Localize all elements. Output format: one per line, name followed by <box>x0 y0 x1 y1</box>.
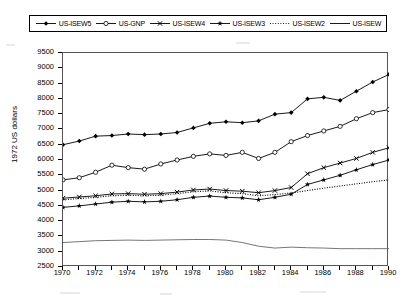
legend-item-us-isew2: US-ISEW2 <box>269 19 325 28</box>
y-tick-mark <box>58 67 62 68</box>
y-tick-mark <box>58 98 62 99</box>
y-tick-label: 9000 <box>20 63 54 71</box>
y-tick-label: 4000 <box>20 216 54 224</box>
y-tick-label: 8000 <box>20 94 54 102</box>
y-axis-title: 1972 US dollars <box>10 75 19 195</box>
y-tick-mark <box>58 235 62 236</box>
legend-key-filled-star-solid-line <box>209 19 231 28</box>
legend-label: US-ISEW <box>353 20 382 28</box>
y-tick-mark <box>58 251 62 252</box>
x-tick-label: 1970 <box>47 269 77 277</box>
legend-label: US-GNP <box>119 20 145 28</box>
x-tick-label: 1986 <box>308 269 338 277</box>
y-tick-label: 9500 <box>20 48 54 56</box>
legend-label: US-ISEW4 <box>173 20 205 28</box>
y-tick-label: 3500 <box>20 231 54 239</box>
legend-label: US-ISEW3 <box>233 20 265 28</box>
y-tick-label: 3000 <box>20 247 54 255</box>
y-tick-mark <box>58 205 62 206</box>
scan-artifact <box>300 291 326 293</box>
y-tick-mark <box>58 220 62 221</box>
legend-key-cross-x-solid-line <box>149 19 171 28</box>
x-tick-label: 1972 <box>80 269 110 277</box>
x-tick-label: 1978 <box>177 269 207 277</box>
y-tick-label: 5000 <box>20 186 54 194</box>
chart-screenshot: US-ISEW5US-GNPUS-ISEW4US-ISEW3US-ISEW2US… <box>0 0 418 300</box>
legend-key-solid-line <box>329 19 351 28</box>
scan-artifact <box>236 42 250 44</box>
y-tick-mark <box>58 83 62 84</box>
series-us-isew5 <box>63 72 389 147</box>
legend-item-us-isew3: US-ISEW3 <box>209 19 265 28</box>
plot-area <box>62 52 388 266</box>
legend-label: US-ISEW2 <box>293 20 325 28</box>
y-tick-mark <box>58 159 62 160</box>
scan-artifact <box>60 292 80 294</box>
legend-item-us-gnp: US-GNP <box>95 19 145 28</box>
y-tick-label: 6500 <box>20 140 54 148</box>
x-tick-label: 1984 <box>275 269 305 277</box>
y-tick-label: 7500 <box>20 109 54 117</box>
x-tick-label: 1982 <box>243 269 273 277</box>
y-tick-mark <box>58 52 62 53</box>
chart-legend: US-ISEW5US-GNPUS-ISEW4US-ISEW3US-ISEW2US… <box>29 15 387 32</box>
legend-item-us-isew4: US-ISEW4 <box>149 19 205 28</box>
y-tick-label: 5500 <box>20 170 54 178</box>
y-tick-mark <box>58 113 62 114</box>
scan-artifact <box>160 293 172 295</box>
y-tick-label: 7000 <box>20 124 54 132</box>
legend-item-us-isew: US-ISEW <box>329 19 382 28</box>
legend-key-dotted-line <box>269 19 291 28</box>
legend-item-us-isew5: US-ISEW5 <box>35 19 91 28</box>
x-tick-label: 1976 <box>145 269 175 277</box>
y-tick-label: 4500 <box>20 201 54 209</box>
y-tick-mark <box>58 174 62 175</box>
x-tick-label: 1990 <box>373 269 403 277</box>
legend-label: US-ISEW5 <box>59 20 91 28</box>
series-us-gnp <box>63 107 389 182</box>
y-tick-mark <box>58 128 62 129</box>
y-tick-label: 8500 <box>20 79 54 87</box>
x-tick-label: 1974 <box>112 269 142 277</box>
x-tick-label: 1980 <box>210 269 240 277</box>
series-layer <box>63 53 389 267</box>
legend-key-filled-diamond-solid-line <box>35 19 57 28</box>
x-tick-label: 1988 <box>340 269 370 277</box>
scan-artifact <box>6 44 15 46</box>
y-tick-label: 6000 <box>20 155 54 163</box>
y-tick-mark <box>58 144 62 145</box>
legend-key-open-circle-solid-line <box>95 19 117 28</box>
series-us-isew <box>63 239 389 248</box>
y-tick-mark <box>58 190 62 191</box>
